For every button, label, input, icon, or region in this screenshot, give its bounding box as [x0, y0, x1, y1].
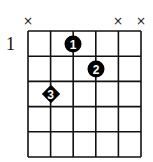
mute-marker-string-1: ×: [23, 15, 33, 27]
finger-number: 3: [47, 87, 54, 101]
finger-number: 2: [93, 62, 100, 76]
finger-number: 1: [70, 37, 77, 51]
finger-dot-1: 1: [65, 36, 82, 53]
finger-diamond-3: 3: [42, 86, 59, 103]
start-fret-label: 1: [6, 35, 15, 53]
mute-marker-string-6: ×: [136, 15, 146, 27]
mute-marker-string-5: ×: [113, 15, 123, 27]
finger-dot-2: 2: [88, 61, 105, 78]
